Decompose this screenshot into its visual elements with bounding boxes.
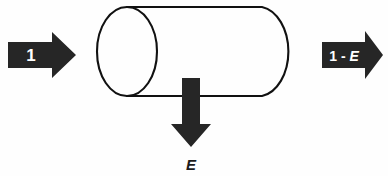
output-arrow-label-prefix: 1 - xyxy=(329,48,349,64)
cylinder-body-outline xyxy=(127,7,288,96)
output-arrow-label-variable: E xyxy=(349,48,359,64)
output-arrow-label: 1 - E xyxy=(329,48,359,64)
diagram-canvas: 1 1 - E E xyxy=(0,0,388,176)
cylinder-left-face-ellipse xyxy=(97,7,157,96)
extraction-arrow-shape xyxy=(171,78,211,147)
process-flow-diagram: 1 1 - E E xyxy=(0,0,388,176)
input-arrow: 1 xyxy=(8,32,76,78)
input-arrow-label: 1 xyxy=(26,46,35,65)
output-arrow: 1 - E xyxy=(322,31,383,79)
extraction-arrow-label: E xyxy=(186,156,197,173)
input-arrow-shape xyxy=(8,32,76,78)
extraction-arrow xyxy=(171,78,211,147)
